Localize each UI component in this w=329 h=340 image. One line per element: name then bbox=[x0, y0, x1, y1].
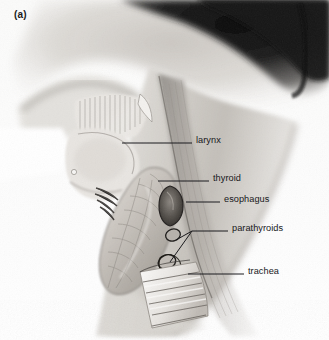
anatomy-illustration bbox=[0, 0, 329, 340]
label-thyroid: thyroid bbox=[213, 173, 241, 183]
label-parathyroids: parathyroids bbox=[232, 223, 283, 233]
panel-label: (a) bbox=[14, 9, 27, 20]
scan-speckle bbox=[0, 300, 329, 340]
label-larynx: larynx bbox=[196, 135, 221, 145]
label-trachea: trachea bbox=[248, 266, 279, 276]
paper-grain bbox=[0, 0, 329, 340]
label-esophagus: esophagus bbox=[224, 194, 269, 204]
anatomy-figure: (a) larynx thyroid esophagus parathyroid… bbox=[0, 0, 329, 340]
